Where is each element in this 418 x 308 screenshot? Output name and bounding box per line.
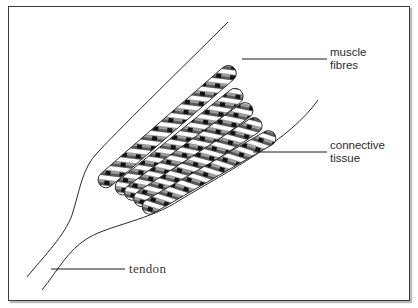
label-muscle-fibres: muscle fibres [330,46,366,72]
label-connective-tissue-line1: connective [330,139,385,152]
muscle-fibres [95,62,279,217]
label-muscle-fibres-line1: muscle [330,46,366,59]
label-connective-tissue-line2: tissue [330,152,385,165]
label-tendon: tendon [129,262,166,276]
label-connective-tissue: connective tissue [330,139,385,165]
label-muscle-fibres-line2: fibres [330,59,366,72]
